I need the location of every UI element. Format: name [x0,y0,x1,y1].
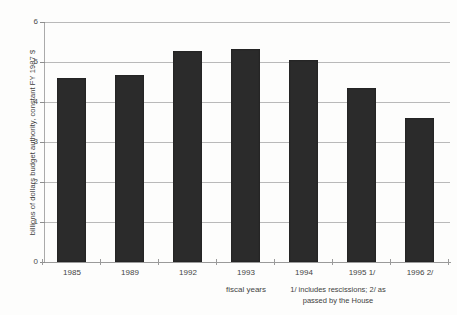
y-tick-label-1: 1 [26,218,38,226]
footnote-line-2: passed by the House [258,295,418,306]
y-tick-3 [40,142,45,143]
bar-chart: billions of dollars budget authority, co… [0,0,457,315]
chart-footnote: 1/ includes rescissions; 2/ as passed by… [258,284,418,306]
y-tick-label-4: 4 [26,98,38,106]
x-tick-3 [216,259,217,265]
x-label-1992: 1992 [162,268,214,277]
bar-1992[interactable] [173,51,202,262]
bar-1985[interactable] [57,78,86,262]
y-tick-6 [40,22,45,23]
x-tick-7 [448,259,449,265]
x-tick-0 [42,259,43,265]
bar-1989[interactable] [115,75,144,262]
bar-1995[interactable] [347,88,376,262]
gridline-6 [44,22,450,23]
footnote-line-1: 1/ includes rescissions; 2/ as [258,284,418,295]
x-label-1989: 1989 [104,268,156,277]
x-tick-1 [100,259,101,265]
y-tick-4 [40,102,45,103]
bar-1994[interactable] [289,60,318,262]
x-tick-2 [158,259,159,265]
bar-1996[interactable] [405,118,434,262]
x-tick-5 [332,259,333,265]
x-tick-4 [274,259,275,265]
x-label-1995: 1995 1/ [336,268,388,277]
x-label-1996: 1996 2/ [394,268,446,277]
y-tick-label-6: 6 [26,18,38,26]
y-tick-1 [40,222,45,223]
y-tick-label-5: 5 [26,58,38,66]
x-label-1985: 1985 [46,268,98,277]
x-label-1994: 1994 [278,268,330,277]
y-tick-2 [40,182,45,183]
chart-screenshot: billions of dollars budget authority, co… [0,0,457,315]
y-tick-5 [40,62,45,63]
x-tick-6 [390,259,391,265]
bar-1993[interactable] [231,49,260,262]
y-tick-label-2: 2 [26,178,38,186]
y-tick-label-0: 0 [26,258,38,266]
y-tick-label-3: 3 [26,138,38,146]
x-label-1993: 1993 [220,268,272,277]
